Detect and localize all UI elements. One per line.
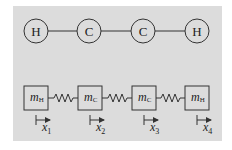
mass-3: mC [132, 86, 156, 110]
mass-subscript: H [39, 96, 44, 104]
springs [48, 94, 185, 102]
svg-text:mH: mH [191, 90, 205, 104]
atom-label: C [139, 24, 148, 39]
mass-symbol: m [191, 90, 200, 104]
mass-subscript: H [200, 96, 205, 104]
coord-label-3: x3 [149, 120, 159, 136]
spring-1 [48, 94, 78, 102]
coord-label-4: x4 [202, 120, 212, 136]
mass-symbol: m [84, 90, 93, 104]
mass-2: mC [78, 86, 102, 110]
atom-label: C [85, 24, 94, 39]
mass-symbol: m [138, 90, 147, 104]
svg-text:mH: mH [30, 90, 44, 104]
atom-label: H [192, 24, 201, 39]
svg-text:mC: mC [138, 90, 152, 104]
mass-subscript: C [93, 96, 98, 104]
atom-h1: H [24, 19, 48, 43]
mass-4: mH [185, 86, 209, 110]
atom-label: H [31, 24, 40, 39]
atom-c2: C [131, 19, 155, 43]
spring-2 [102, 94, 132, 102]
atom-c1: C [77, 19, 101, 43]
coord-label-1: x1 [41, 120, 51, 136]
mass-1: mH [24, 86, 48, 110]
atom-h2: H [185, 19, 209, 43]
diagram-canvas: H C C H mH mC mC mH [0, 0, 232, 150]
coord-label-2: x2 [95, 120, 105, 136]
svg-text:mC: mC [84, 90, 98, 104]
spring-3 [156, 94, 185, 102]
mass-subscript: C [147, 96, 152, 104]
mass-symbol: m [30, 90, 39, 104]
